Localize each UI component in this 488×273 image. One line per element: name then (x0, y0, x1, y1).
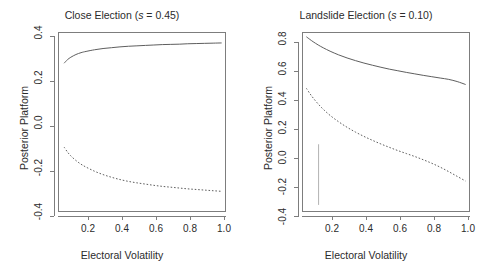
y-tick-mark-right-5 (294, 187, 298, 188)
x-tick-label-left-4: 1.0 (208, 223, 240, 234)
y-tick-label-right-4: 0.0 (277, 145, 288, 171)
x-axis-label-left: Electoral Volatility (0, 249, 244, 261)
y-tick-mark-left-3 (50, 171, 54, 172)
y-tick-label-right-2: 0.4 (277, 86, 288, 112)
y-tick-label-left-4: -0.4 (33, 197, 44, 227)
x-tick-mark-left-0 (88, 216, 89, 220)
x-tick-label-right-0: 0.2 (316, 223, 348, 234)
x-tick-mark-left-2 (156, 216, 157, 220)
y-tick-label-left-3: -0.2 (33, 153, 44, 183)
y-tick-mark-right-0 (294, 42, 298, 43)
x-axis-spine-left (58, 216, 226, 217)
y-tick-label-right-1: 0.6 (277, 56, 288, 82)
panel-title-suffix-right: = 0.10) (396, 9, 432, 21)
y-tick-label-right-6: -0.4 (277, 202, 288, 232)
panel-title-landslide-election: Landslide Election (s = 0.10) (244, 9, 488, 22)
x-tick-mark-right-4 (468, 216, 469, 220)
panel-title-prefix: Close Election ( (65, 9, 139, 21)
curves-right (303, 33, 469, 211)
y-tick-mark-right-2 (294, 100, 298, 101)
x-tick-mark-right-3 (434, 216, 435, 220)
plot-area-right (302, 32, 470, 212)
y-axis-label-right: Posterior Platform (262, 86, 274, 170)
panel-title-suffix: = 0.45) (143, 9, 179, 21)
y-tick-label-left-0: 0.4 (33, 20, 44, 46)
x-tick-mark-right-0 (332, 216, 333, 220)
y-tick-mark-left-2 (50, 126, 54, 127)
x-tick-mark-right-1 (366, 216, 367, 220)
curve-lower-dashed-right (306, 88, 465, 181)
x-tick-mark-left-1 (122, 216, 123, 220)
x-axis-label-right: Electoral Volatility (244, 249, 488, 261)
y-tick-mark-right-4 (294, 158, 298, 159)
y-tick-label-right-5: -0.2 (277, 172, 288, 202)
y-tick-label-right-3: 0.2 (277, 115, 288, 141)
figure-two-panel-plot: Close Election (s = 0.45) Posterior Plat… (0, 0, 488, 273)
curve-upper-solid-right (306, 37, 465, 85)
y-tick-mark-right-3 (294, 129, 298, 130)
x-tick-label-right-1: 0.4 (350, 223, 382, 234)
y-tick-label-left-1: 0.2 (33, 65, 44, 91)
x-tick-label-left-2: 0.6 (140, 223, 172, 234)
y-tick-mark-left-0 (50, 36, 54, 37)
y-tick-mark-left-4 (50, 216, 54, 217)
panel-landslide-election: Landslide Election (s = 0.10) Posterior … (244, 0, 488, 273)
y-tick-label-left-2: 0.0 (33, 110, 44, 136)
plot-area-left (58, 32, 226, 212)
panel-close-election: Close Election (s = 0.45) Posterior Plat… (0, 0, 244, 273)
x-tick-mark-left-4 (224, 216, 225, 220)
x-tick-label-left-1: 0.4 (106, 223, 138, 234)
x-tick-mark-left-3 (190, 216, 191, 220)
curves-left (59, 33, 225, 211)
curve-lower-dashed-left (64, 147, 222, 191)
panel-title-prefix-right: Landslide Election ( (300, 9, 392, 21)
y-axis-spine-left (54, 36, 55, 216)
y-tick-label-right-0: 0.8 (277, 26, 288, 52)
y-tick-mark-right-6 (294, 216, 298, 217)
x-tick-label-right-2: 0.6 (384, 223, 416, 234)
y-axis-label-left: Posterior Platform (18, 86, 30, 170)
x-tick-mark-right-2 (400, 216, 401, 220)
x-tick-label-left-0: 0.2 (72, 223, 104, 234)
x-tick-label-right-3: 0.8 (418, 223, 450, 234)
curve-upper-solid-left (64, 43, 222, 63)
x-tick-label-right-4: 1.0 (452, 223, 484, 234)
y-tick-mark-left-1 (50, 81, 54, 82)
x-tick-label-left-3: 0.8 (174, 223, 206, 234)
y-axis-spine-right (298, 42, 299, 217)
y-tick-mark-right-1 (294, 71, 298, 72)
x-axis-spine-right (302, 216, 470, 217)
